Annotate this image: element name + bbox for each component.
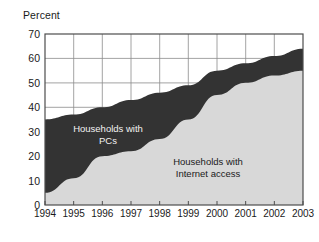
series-label-internet-line1: Households with [152, 156, 264, 168]
series-label-pcs-line1: Households with [54, 123, 162, 135]
plot-area [0, 0, 319, 242]
series-label-internet-line2: Internet access [152, 168, 264, 180]
series-label-households-with-internet-access: Households with Internet access [152, 156, 264, 179]
chart-container: Percent 70 60 50 40 30 20 10 0 [0, 0, 319, 242]
series-label-households-with-pcs: Households with PCs [54, 123, 162, 146]
x-tick-label-2003: 2003 [283, 208, 319, 219]
series-label-pcs-line2: PCs [54, 135, 162, 147]
